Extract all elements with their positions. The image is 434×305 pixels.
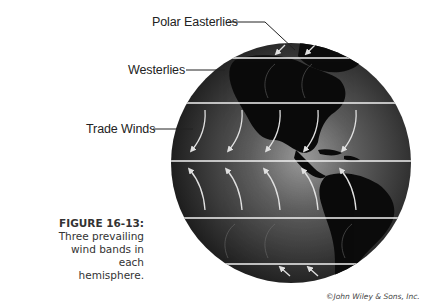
label-westerlies: Westerlies (128, 63, 185, 77)
figure-number: FIGURE 16-13: (54, 217, 144, 230)
figure-caption-text: Three prevailing wind bands in each hemi… (59, 230, 144, 281)
copyright-credit: ©John Wiley & Sons, Inc. (326, 292, 420, 301)
label-polar-easterlies: Polar Easterlies (152, 15, 238, 29)
label-trade-winds: Trade Winds (86, 122, 155, 136)
figure-caption: FIGURE 16-13: Three prevailing wind band… (54, 217, 144, 282)
